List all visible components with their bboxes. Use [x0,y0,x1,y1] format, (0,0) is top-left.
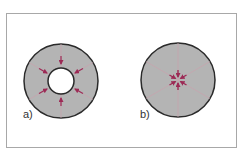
diagram-canvas [0,0,247,160]
panel-a-annulus [24,44,98,118]
inner-hole [48,68,74,94]
panel-b-label: b) [140,109,150,120]
panel-a-label: a) [23,109,33,120]
panel-b-disc [141,43,215,117]
